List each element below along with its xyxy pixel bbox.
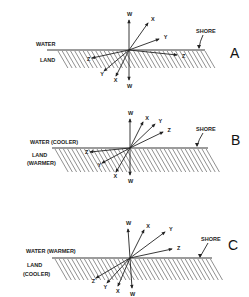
land-hatching (55, 259, 223, 280)
hatch-line (55, 149, 68, 172)
hatch-line (58, 51, 68, 68)
land-label: LAND (32, 152, 47, 158)
hatch-line (131, 149, 144, 172)
hatch-line (147, 149, 160, 172)
hatch-line (194, 149, 207, 172)
vector-label: Z (177, 245, 181, 251)
hatch-line (185, 149, 198, 172)
vector-label: W (130, 291, 136, 297)
vector-label: W (127, 11, 133, 17)
hatch-line (97, 149, 110, 172)
vectors: WXYZZYXW (85, 110, 171, 184)
vector-label: W (127, 83, 133, 89)
hatch-line (101, 149, 114, 172)
arrowhead-icon (128, 172, 131, 176)
shore-label: SHORE (196, 126, 216, 132)
arrowhead-icon (128, 118, 131, 122)
hatch-line (181, 149, 194, 172)
hatch-line (142, 51, 152, 68)
vector-label: X (151, 16, 155, 22)
hatch-line (192, 51, 202, 68)
arrowhead-icon (169, 248, 173, 251)
hatch-line (126, 149, 139, 172)
vector-label: Y (104, 284, 108, 290)
vector-label: X (145, 115, 149, 121)
hatch-line (138, 51, 148, 68)
hatch-line (125, 51, 135, 68)
hatch-line (59, 149, 72, 172)
hatch-line (202, 149, 215, 172)
refraction-diagram: WATER LAND SHORE A WXYZZYXW WATER (COOLE… (0, 0, 249, 297)
vector-label: W (128, 110, 134, 116)
hatch-line (177, 149, 190, 172)
hatch-line (68, 149, 81, 172)
incident-vector-x: X (130, 223, 150, 258)
hatch-line (173, 149, 186, 172)
panel-label: B (231, 132, 240, 148)
water-label: WATER (WARMER) (26, 248, 76, 254)
hatch-line (122, 149, 135, 172)
hatch-line (75, 51, 85, 68)
hatch-line (201, 51, 211, 68)
hatch-line (62, 51, 72, 68)
vector-label: X (116, 288, 120, 294)
arrowhead-icon (127, 19, 130, 23)
vector-label: Y (100, 71, 104, 77)
hatch-line (71, 51, 81, 68)
hatch-line (100, 51, 110, 68)
shore-pointer-arrowhead (197, 45, 201, 49)
hatch-line (143, 149, 156, 172)
hatch-line (92, 51, 102, 68)
vector-label: X (146, 223, 150, 229)
hatch-line (188, 51, 198, 68)
hatch-line (118, 149, 131, 172)
hatch-line (168, 149, 181, 172)
shore-pointer-arrowhead (195, 143, 199, 147)
vector-label: Z (92, 278, 96, 284)
hatch-line (129, 51, 139, 68)
hatch-line (164, 149, 177, 172)
hatch-line (135, 149, 148, 172)
arrowhead-icon (127, 77, 130, 81)
arrowhead-icon (155, 39, 159, 42)
land-label: LAND (27, 262, 42, 268)
hatch-line (197, 51, 207, 68)
water-label: WATER (36, 41, 55, 47)
land-temp-label: (COOLER) (23, 271, 50, 277)
hatch-line (160, 149, 173, 172)
land-hatching (58, 51, 215, 68)
shore-label: SHORE (201, 236, 221, 242)
refracted-vector-x: X (114, 50, 129, 83)
vector-label: Y (169, 226, 173, 232)
incident-vector-z: Z (130, 127, 171, 148)
land-hatching (55, 149, 219, 172)
hatch-line (96, 51, 106, 68)
arrowhead-icon (145, 22, 149, 26)
incident-vector-w: W (126, 220, 132, 258)
hatch-line (171, 51, 181, 68)
hatch-line (189, 149, 202, 172)
incident-vector-y: Y (130, 118, 163, 148)
hatch-line (134, 51, 144, 68)
vectors: WXYZZYXW (92, 220, 181, 297)
vector-label: Z (167, 127, 171, 133)
hatch-line (167, 51, 177, 68)
incident-vector-w: W (127, 11, 133, 50)
hatch-line (156, 149, 169, 172)
hatch-line (146, 51, 156, 68)
land-temp-label: (WARMER) (27, 160, 56, 166)
vector-label: Z (87, 56, 91, 62)
incident-vector-z: Z (130, 245, 181, 258)
hatch-line (152, 149, 165, 172)
hatch-line (198, 149, 211, 172)
hatch-line (139, 149, 152, 172)
arrowhead-icon (130, 285, 133, 289)
hatch-line (206, 149, 219, 172)
vector-label: Y (159, 118, 163, 124)
vector-label: Y (164, 34, 168, 40)
panel-label: A (230, 45, 240, 61)
panel-a: WATER LAND SHORE A WXYZZYXW (36, 11, 240, 89)
panel-label: C (228, 237, 238, 253)
hatch-line (205, 51, 215, 68)
hatch-line (184, 51, 194, 68)
